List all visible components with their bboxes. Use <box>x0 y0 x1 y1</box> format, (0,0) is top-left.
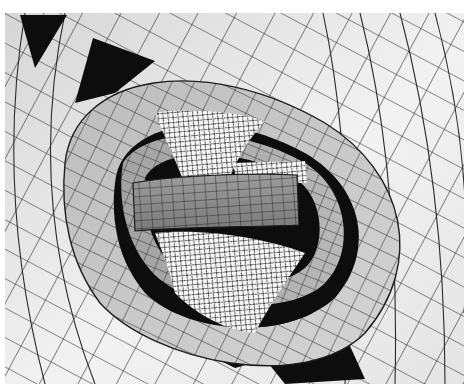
image-frame <box>0 0 469 389</box>
core-tube <box>133 174 299 231</box>
surface-render <box>5 13 464 384</box>
surface-render-svg <box>5 13 464 384</box>
